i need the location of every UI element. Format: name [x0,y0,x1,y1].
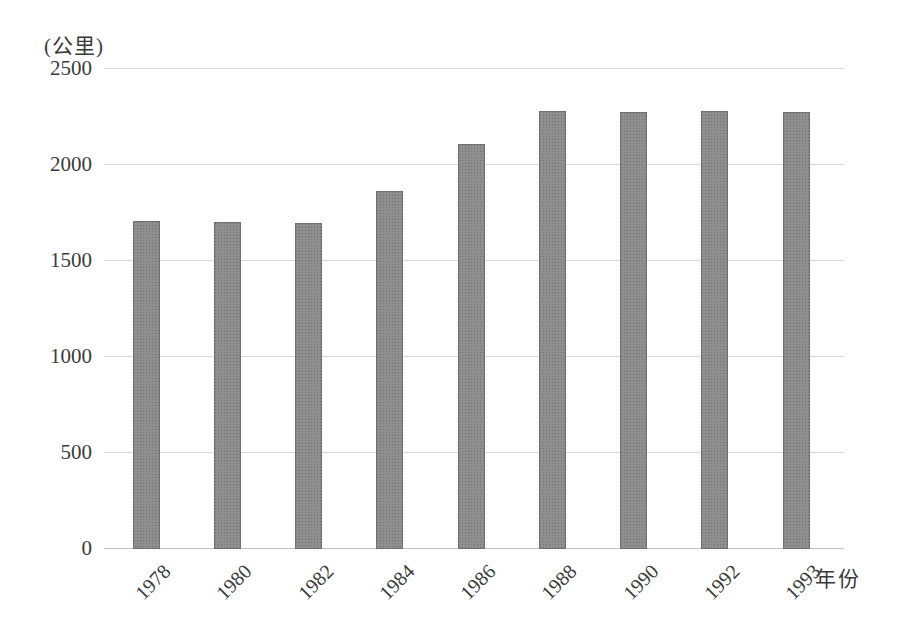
bar-1993 [783,112,810,549]
x-tick-label-1984: 1984 [357,560,418,621]
gridline-2500 [104,68,844,69]
x-tick-label-1992: 1992 [682,560,743,621]
y-tick-label-1500: 1500 [28,249,92,271]
y-tick-label-2000: 2000 [28,153,92,175]
x-tick-label-1980: 1980 [195,560,256,621]
y-tick-label-0: 0 [28,537,92,559]
plot-area [104,0,844,550]
bar-1992 [701,111,728,549]
bar-1986 [458,144,485,549]
y-axis-unit-label: (公里) [44,29,104,59]
bar-1984 [376,191,403,549]
bar-1982 [295,223,322,549]
x-tick-label-1978: 1978 [114,560,175,621]
x-tick-label-1982: 1982 [276,560,337,621]
bar-1988 [539,111,566,549]
x-tick-label-1988: 1988 [520,560,581,621]
x-tick-label-1986: 1986 [439,560,500,621]
bar-1978 [133,221,160,549]
bar-chart-figure: (公里) 25002000150010005000 19781980198219… [0,0,899,633]
bar-1990 [620,112,647,549]
bar-1980 [214,222,241,549]
y-tick-label-2500: 2500 [28,57,92,79]
x-axis-title: 年份 [815,562,861,592]
x-tick-label-1990: 1990 [601,560,662,621]
y-tick-label-500: 500 [28,441,92,463]
y-tick-label-1000: 1000 [28,345,92,367]
